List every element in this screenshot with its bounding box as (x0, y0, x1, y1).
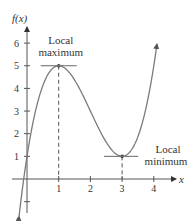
local-max-label-line1: Local (48, 34, 73, 46)
y-tick-label: 1 (14, 151, 19, 162)
x-tick-label: 1 (56, 183, 61, 194)
y-tick-label: 2 (14, 128, 19, 139)
x-axis-label: x (178, 173, 184, 185)
x-tick-label: 3 (120, 183, 125, 194)
x-tick-label: 2 (88, 183, 93, 194)
y-tick-label: 3 (14, 106, 19, 117)
y-ticks: 123456 (14, 38, 30, 202)
x-tick-label: 4 (151, 183, 156, 194)
y-tick-label: 6 (14, 38, 19, 49)
y-axis-label: f(x) (12, 12, 28, 25)
y-tick-label: 5 (14, 60, 19, 71)
local-max-label-line2: maximum (38, 46, 83, 58)
chart: 1234 123456 x f(x) Local maximum Local m… (0, 0, 193, 221)
annotations: Local maximum Local minimum (38, 34, 187, 179)
axes: 1234 123456 x f(x) (12, 12, 184, 213)
local-min-label-line2: minimum (145, 155, 188, 167)
local-min-label-line1: Local (155, 143, 180, 155)
y-tick-label: 4 (14, 83, 19, 94)
